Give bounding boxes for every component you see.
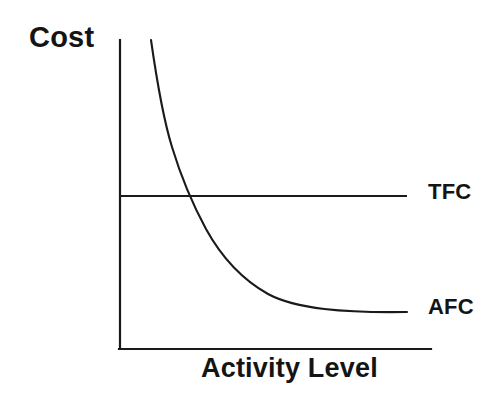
- afc-series-label: AFC: [428, 295, 474, 319]
- y-axis-title: Cost: [29, 21, 94, 53]
- x-axis-title: Activity Level: [201, 353, 378, 383]
- afc-curve: [151, 40, 407, 312]
- tfc-series-label: TFC: [428, 180, 471, 204]
- chart-plot-area: [0, 0, 501, 400]
- cost-behavior-chart: Cost Activity Level TFC AFC: [0, 0, 501, 400]
